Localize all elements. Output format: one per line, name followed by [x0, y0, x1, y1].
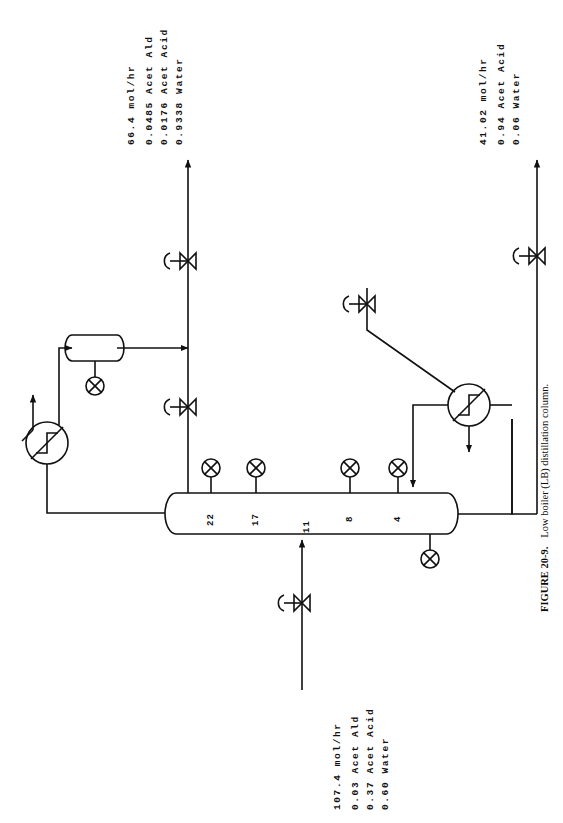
distillate-flow-label: 66.4 mol/hr [127, 65, 137, 145]
steam-supply-line [367, 288, 455, 392]
condenser-heat-exchanger [22, 395, 68, 464]
reflux-accumulator-drum [65, 335, 124, 361]
figure-caption-text: Low boiler (LB) distillation column. [539, 384, 550, 538]
reboiler-vapor-return-line [413, 405, 448, 487]
tray-sensor-17[interactable] [247, 459, 265, 493]
reflux-drum-level-sensor[interactable] [86, 361, 104, 395]
distillate-control-valve[interactable] [164, 253, 196, 269]
reflux-control-valve[interactable] [164, 399, 196, 415]
tray-sensor-8[interactable] [341, 459, 359, 493]
bottoms-control-valve[interactable] [513, 248, 545, 264]
steam-control-valve[interactable] [343, 296, 375, 312]
distillate-component-2: 0.0176 Acet Acid [160, 28, 170, 145]
feed-control-valve[interactable] [278, 595, 310, 611]
reboiler-draw-line [458, 419, 512, 514]
feed-component-1: 0.03 Acet Ald [351, 715, 361, 810]
bottoms-flow-label: 41.02 mol/hr [479, 57, 489, 145]
figure-caption: FIGURE 20-9.Low boiler (LB) distillation… [534, 384, 552, 612]
feed-component-3: 0.60 Water [381, 737, 391, 810]
tray-sensor-4[interactable] [389, 459, 407, 493]
bottoms-component-1: 0.94 Acet Acid [497, 43, 507, 145]
reflux-return-line [47, 464, 165, 513]
reboiler-heat-exchanger [448, 384, 512, 452]
figure-container: 66.4 mol/hr 0.0485 Acet Ald 0.0176 Acet … [0, 0, 563, 823]
feed-component-2: 0.37 Acet Acid [366, 708, 376, 810]
tray-number-22: 22 [207, 513, 216, 526]
drum-inlet-line [59, 348, 72, 425]
bottoms-component-2: 0.06 Water [512, 72, 522, 145]
distillate-component-3: 0.9338 Water [175, 57, 185, 145]
tray-number-4: 4 [394, 515, 403, 522]
tray-sensor-22[interactable] [202, 459, 220, 493]
tray-number-8: 8 [346, 515, 355, 522]
feed-flow-label: 107.4 mol/hr [333, 722, 343, 810]
tray-number-11: 11 [303, 520, 312, 533]
bottoms-level-sensor[interactable] [421, 534, 439, 568]
figure-number: FIGURE 20-9. [539, 547, 550, 612]
distillate-component-1: 0.0485 Acet Ald [145, 35, 155, 145]
tray-number-17: 17 [252, 513, 261, 526]
